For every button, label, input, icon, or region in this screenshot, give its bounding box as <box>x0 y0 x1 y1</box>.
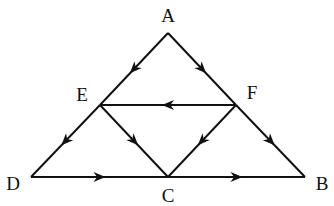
edges-group <box>31 33 305 182</box>
node-label-E: E <box>76 84 88 105</box>
node-label-D: D <box>6 173 20 194</box>
node-label-C: C <box>162 185 175 206</box>
node-label-F: F <box>247 82 258 103</box>
node-label-A: A <box>161 5 175 26</box>
directed-graph-diagram: AEFDCB <box>0 0 334 206</box>
node-label-B: B <box>316 173 329 194</box>
